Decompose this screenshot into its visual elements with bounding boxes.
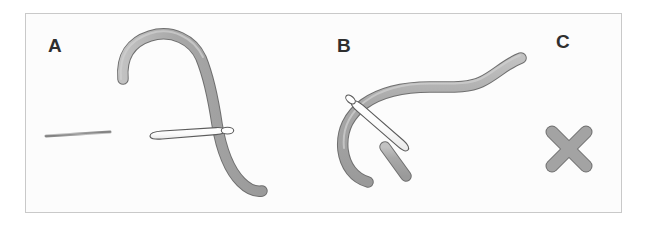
- panel-a-needle-eye: [221, 127, 233, 134]
- surgical-technique-figure: A B C: [0, 0, 645, 228]
- figure-frame: [26, 14, 622, 213]
- panel-label-c: C: [556, 31, 570, 52]
- panel-label-b: B: [337, 35, 351, 56]
- panel-label-a: A: [48, 35, 62, 56]
- figure-root: A B C: [0, 0, 645, 228]
